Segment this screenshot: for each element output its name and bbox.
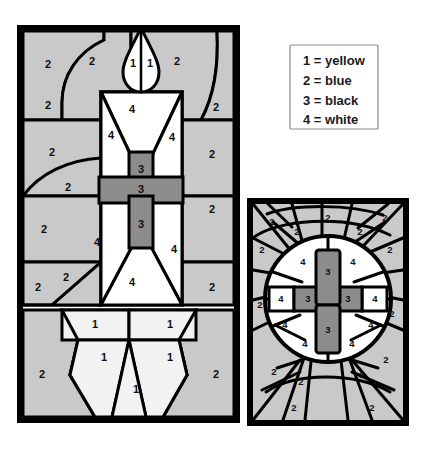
region-bg-mid-left-lower xyxy=(23,196,101,262)
label-cross-arm: 3 xyxy=(138,183,144,195)
label-bg-top-left-outer: 2 xyxy=(45,58,51,70)
legend-entry-4: 4 = white xyxy=(303,112,358,127)
stained-glass-worksheet: 1 1 2 2 2 2 2 2 2 2 2 2 2 2 2 2 2 4 4 4 … xyxy=(0,0,425,454)
label-bg-low-right-lower: 2 xyxy=(209,281,215,293)
label-bg-bottom-right: 2 xyxy=(213,368,219,380)
label-base-mid-right: 1 xyxy=(167,351,173,363)
cross-panel: 2 2 2 2 2 2 2 2 2 2 2 2 2 2 2 4 4 4 4 4 … xyxy=(250,201,406,423)
legend-entry-1: 1 = yellow xyxy=(303,53,366,68)
label-base-top-left: 1 xyxy=(92,318,98,330)
label-ray-right-mid: 2 xyxy=(389,308,394,319)
label-disc-far-left: 4 xyxy=(278,293,284,304)
label-ray-right-upper: 2 xyxy=(387,244,392,255)
label-bg-bottom-left: 2 xyxy=(39,368,45,380)
label-disc-tr: 4 xyxy=(350,256,356,267)
label-ray-left-mid: 2 xyxy=(257,299,262,310)
label-bg-top-right-corner: 2 xyxy=(213,101,219,113)
label-candle-left: 4 xyxy=(108,129,115,141)
label-flame-left: 1 xyxy=(130,57,136,69)
label-bg-low-left-inner: 2 xyxy=(35,281,41,293)
label-ray-tl-inner: 2 xyxy=(294,226,299,237)
legend-entry-3: 3 = black xyxy=(303,93,359,108)
label-ray-tr-outer: 2 xyxy=(382,212,387,223)
label-bg-mid-left-upper: 2 xyxy=(49,146,55,158)
color-key-legend: 1 = yellow 2 = blue 3 = black 4 = white xyxy=(290,45,378,129)
label-candle-bottom: 4 xyxy=(129,276,136,288)
label-disc-far-right: 4 xyxy=(372,293,378,304)
label-cross-left-arm: 3 xyxy=(305,293,310,304)
label-ray-left-upper: 2 xyxy=(259,244,264,255)
label-disc-bl: 4 xyxy=(302,338,308,349)
label-ray-bl-inner: 2 xyxy=(298,376,303,387)
label-bg-mid-left: 2 xyxy=(45,99,51,111)
label-ray-top-center: 2 xyxy=(325,212,330,223)
label-ray-bl-outer: 2 xyxy=(271,366,276,377)
label-base-top-right: 1 xyxy=(167,318,173,330)
label-disc-br: 4 xyxy=(349,338,355,349)
label-candle-right: 4 xyxy=(169,131,176,143)
label-ray-br-outer: 2 xyxy=(383,354,388,365)
label-candle-top: 4 xyxy=(129,103,136,115)
label-cross-upper: 3 xyxy=(138,163,144,175)
label-bg-mid-left-arc: 2 xyxy=(65,181,71,193)
label-cross-lower: 3 xyxy=(138,218,144,230)
label-bg-mid-right-upper: 2 xyxy=(209,148,215,160)
label-ray-bottom-right: 2 xyxy=(369,402,374,413)
label-disc-left-mid: 4 xyxy=(282,319,288,330)
label-ray-bottom-left: 2 xyxy=(291,402,296,413)
label-candle-right-lower: 4 xyxy=(171,243,178,255)
label-ray-br-inner: 2 xyxy=(359,369,364,380)
label-disc-tl: 4 xyxy=(300,256,306,267)
label-bg-top-left: 2 xyxy=(89,55,95,67)
label-ray-tl-outer: 2 xyxy=(269,216,274,227)
label-candle-left-lower: 4 xyxy=(94,236,101,248)
legend-entry-2: 2 = blue xyxy=(303,73,352,88)
label-disc-right-mid: 4 xyxy=(368,319,374,330)
label-base-mid-left: 1 xyxy=(101,351,107,363)
worksheet-page: 1 1 2 2 2 2 2 2 2 2 2 2 2 2 2 2 2 4 4 4 … xyxy=(0,0,425,454)
label-base-center: 1 xyxy=(133,383,139,395)
label-bg-top-right: 2 xyxy=(174,55,180,67)
label-cross-right-arm: 3 xyxy=(345,293,350,304)
label-cross-top: 3 xyxy=(325,266,330,277)
label-cross-bottom: 3 xyxy=(325,324,330,335)
label-bg-mid-right-lower: 2 xyxy=(209,203,215,215)
label-bg-low-left: 2 xyxy=(41,223,47,235)
label-flame-right: 1 xyxy=(147,57,153,69)
region-cross-top xyxy=(316,250,340,305)
label-bg-low-left-2: 2 xyxy=(63,271,69,283)
candle-panel: 1 1 2 2 2 2 2 2 2 2 2 2 2 2 2 2 2 4 4 4 … xyxy=(20,28,237,420)
label-ray-tr-inner: 2 xyxy=(357,226,362,237)
